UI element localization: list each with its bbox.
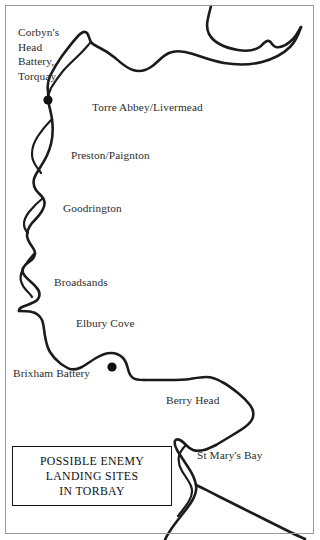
label-st-marys-bay: St Mary's Bay (197, 448, 262, 463)
coastline-torbay-north-bay (48, 27, 301, 100)
map-title-box: POSSIBLE ENEMY LANDING SITES IN TORBAY (12, 446, 172, 506)
map-title-line-1: POSSIBLE ENEMY (40, 454, 144, 469)
label-broadsands: Broadsands (54, 275, 108, 290)
label-torre-abbey-livermead: Torre Abbey/Livermead (92, 100, 203, 115)
coastline-brixham-to-berry-head (144, 377, 253, 445)
coastline-north-segment (207, 6, 301, 51)
label-preston-paignton: Preston/Paignton (71, 148, 150, 163)
corbyns-head-marker (43, 95, 52, 104)
brixham-battery-marker (107, 362, 116, 371)
label-corbyns-head-battery-torquay: Corbyn's Head Battery, Torquay (18, 25, 59, 83)
label-elbury-cove: Elbury Cove (76, 316, 135, 331)
map-title-line-2: LANDING SITES (46, 469, 139, 484)
coastline-southeast-exit (196, 485, 305, 539)
label-goodrington: Goodrington (63, 201, 122, 216)
label-berry-head: Berry Head (166, 393, 219, 408)
label-brixham-battery: Brixham Battery (13, 366, 90, 381)
map-title-line-3: IN TORBAY (59, 484, 125, 499)
map-canvas: Corbyn's Head Battery, Torquay Torre Abb… (0, 0, 320, 540)
